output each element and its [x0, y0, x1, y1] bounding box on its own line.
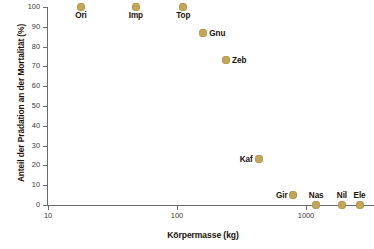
y-tick-mark: [43, 205, 47, 206]
y-tick-label: 60: [12, 82, 40, 90]
data-point-label: Imp: [129, 11, 143, 20]
x-tick-label: 100: [157, 211, 197, 220]
y-tick-mark: [43, 165, 47, 166]
x-tick-label: 1000: [286, 211, 326, 220]
data-point-label: Nil: [337, 191, 347, 200]
data-point[interactable]: [312, 201, 320, 209]
y-tick-mark: [43, 7, 47, 8]
y-tick-mark: [43, 27, 47, 28]
y-axis-line: [47, 7, 48, 206]
data-point[interactable]: [255, 155, 263, 163]
data-point[interactable]: [222, 56, 230, 64]
x-axis-line: [48, 205, 374, 206]
data-point[interactable]: [77, 3, 85, 11]
data-point-label: Gnu: [209, 28, 225, 37]
data-point[interactable]: [289, 191, 297, 199]
data-point-label: Gir: [276, 191, 288, 200]
scatter-chart-figure: Anteil der Prädation an der Mortalität (…: [0, 0, 374, 249]
y-tick-mark: [43, 126, 47, 127]
data-point[interactable]: [199, 29, 207, 37]
data-point-label: Ele: [354, 191, 366, 200]
y-tick-mark: [43, 86, 47, 87]
y-tick-label: 90: [12, 23, 40, 31]
y-tick-mark: [43, 185, 47, 186]
data-point[interactable]: [132, 3, 140, 11]
data-point-label: Nas: [309, 191, 324, 200]
y-tick-mark: [43, 146, 47, 147]
x-tick-mark: [306, 206, 307, 210]
data-point-label: Zeb: [232, 56, 246, 65]
data-point[interactable]: [179, 3, 187, 11]
y-tick-label: 0: [12, 201, 40, 209]
data-point[interactable]: [338, 201, 346, 209]
data-point-label: Kaf: [240, 155, 253, 164]
y-tick-label: 10: [12, 181, 40, 189]
y-tick-label: 80: [12, 43, 40, 51]
y-tick-mark: [43, 66, 47, 67]
y-tick-label: 70: [12, 62, 40, 70]
y-tick-label: 40: [12, 122, 40, 130]
y-tick-label: 100: [12, 3, 40, 11]
x-axis-label: Körpermasse (kg): [48, 230, 358, 240]
x-tick-mark: [48, 206, 49, 210]
y-tick-mark: [43, 106, 47, 107]
y-tick-label: 20: [12, 161, 40, 169]
data-point-label: Ori: [75, 11, 87, 20]
x-tick-mark: [177, 206, 178, 210]
data-point-label: Top: [176, 11, 190, 20]
y-tick-label: 50: [12, 102, 40, 110]
y-tick-mark: [43, 47, 47, 48]
data-point[interactable]: [356, 201, 364, 209]
x-tick-label: 10: [28, 211, 68, 220]
y-tick-label: 30: [12, 142, 40, 150]
